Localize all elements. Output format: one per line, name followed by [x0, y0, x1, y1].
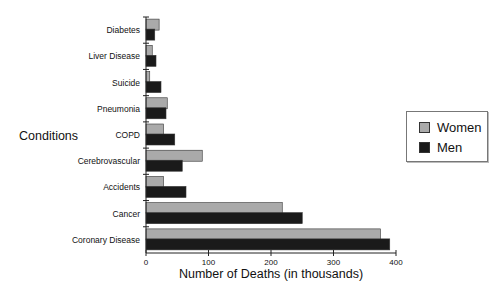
category-label: Diabetes [106, 25, 140, 35]
x-tick-label: 200 [264, 258, 278, 267]
legend-label-men: Men [437, 140, 462, 155]
category-labels: DiabetesLiver DiseaseSuicidePneumoniaCOP… [72, 25, 140, 245]
bar-women-suicide [146, 72, 150, 83]
x-tick-label: 100 [202, 258, 216, 267]
bar-men-pneumonia [146, 108, 166, 119]
legend-label-women: Women [437, 120, 482, 135]
y-axis-title: Conditions [19, 129, 78, 143]
legend-item-men: Men [419, 140, 462, 155]
bars-group [146, 19, 390, 250]
category-label: Coronary Disease [72, 235, 140, 245]
legend: Women Men [406, 111, 488, 162]
legend-swatch-women [419, 122, 430, 133]
bar-men-suicide [146, 82, 161, 93]
category-label: Cancer [113, 209, 141, 219]
bar-men-cancer [146, 213, 302, 224]
category-label: Pneumonia [97, 104, 140, 114]
legend-item-women: Women [419, 120, 482, 135]
x-axis-title: Number of Deaths (in thousands) [179, 267, 363, 281]
bar-men-coronary-disease [146, 239, 390, 250]
bar-women-cancer [146, 203, 282, 214]
bar-women-accidents [146, 176, 164, 187]
category-label: Accidents [103, 182, 140, 192]
bar-men-cerebrovascular [146, 160, 182, 171]
bar-women-copd [146, 124, 164, 135]
bar-women-cerebrovascular [146, 150, 202, 161]
bar-women-pneumonia [146, 98, 167, 109]
bar-men-copd [146, 134, 175, 145]
category-label: COPD [115, 130, 140, 140]
x-tick-label: 400 [389, 258, 403, 267]
bar-men-accidents [146, 186, 186, 197]
x-tick-label: 300 [327, 258, 341, 267]
category-label: Cerebrovascular [78, 156, 141, 166]
category-label: Liver Disease [89, 51, 141, 61]
bar-women-diabetes [146, 19, 159, 30]
category-label: Suicide [112, 78, 140, 88]
bar-women-coronary-disease [146, 229, 380, 240]
bar-men-diabetes [146, 29, 155, 40]
bar-women-liver-disease [146, 45, 152, 56]
bar-men-liver-disease [146, 55, 156, 66]
x-tick-label: 0 [144, 258, 149, 267]
legend-swatch-men [419, 142, 430, 153]
